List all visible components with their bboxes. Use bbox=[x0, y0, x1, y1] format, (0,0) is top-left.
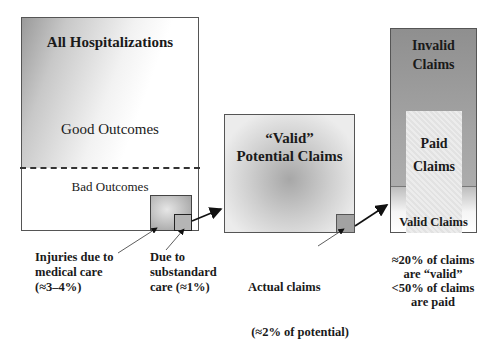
substandard-line-2: substandard bbox=[150, 265, 217, 280]
pointer-substandard bbox=[166, 229, 184, 250]
arrow-to-potential-claims bbox=[192, 209, 221, 221]
substandard-annotation: Due to substandard care (≈1%) bbox=[150, 250, 217, 295]
claims-stats-annotation: ≈20% of claims are “valid” <50% of claim… bbox=[378, 253, 488, 309]
injuries-annotation: Injuries due to medical care (≈3–4%) bbox=[35, 250, 113, 295]
actual-line-2: (≈2% of potential) bbox=[248, 325, 349, 340]
pointer-actual-claims bbox=[318, 229, 344, 246]
stats-line-1: ≈20% of claims bbox=[378, 253, 488, 267]
injuries-line-1: Injuries due to bbox=[35, 250, 113, 265]
arrow-to-claims bbox=[355, 205, 387, 226]
injuries-line-2: medical care bbox=[35, 265, 113, 280]
stats-line-3: <50% of claims bbox=[378, 281, 488, 295]
injuries-line-3: (≈3–4%) bbox=[35, 280, 113, 295]
actual-line-1: Actual claims bbox=[248, 280, 349, 295]
stats-line-2: are “valid” bbox=[378, 267, 488, 281]
substandard-line-1: Due to bbox=[150, 250, 217, 265]
valid-claims-label: Valid Claims bbox=[391, 215, 476, 230]
stats-line-4: are paid bbox=[378, 295, 488, 309]
actual-claims-annotation: Actual claims (≈2% of potential) bbox=[248, 250, 349, 343]
substandard-line-3: care (≈1%) bbox=[150, 280, 217, 295]
